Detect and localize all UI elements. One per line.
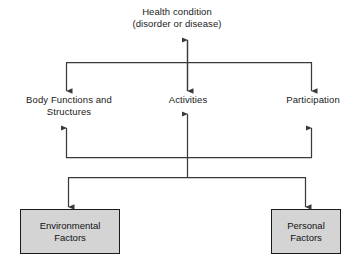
node-participation: Participation (272, 94, 354, 106)
edge-health-to-domains (66, 63, 312, 92)
node-environmental-factors: Environmental Factors (20, 209, 120, 254)
node-activities: Activities (152, 94, 224, 106)
edge-domains-to-factors (68, 178, 306, 208)
edge-contextual-to-domains (66, 128, 312, 158)
node-personal-factors: Personal Factors (271, 209, 341, 254)
figure-caption (18, 258, 348, 266)
node-health-condition: Health condition (disorder or disease) (107, 6, 247, 29)
node-body-functions-and-structures: Body Functions and Structures (4, 94, 134, 117)
icf-diagram-canvas: Health condition (disorder or disease) B… (0, 0, 354, 266)
